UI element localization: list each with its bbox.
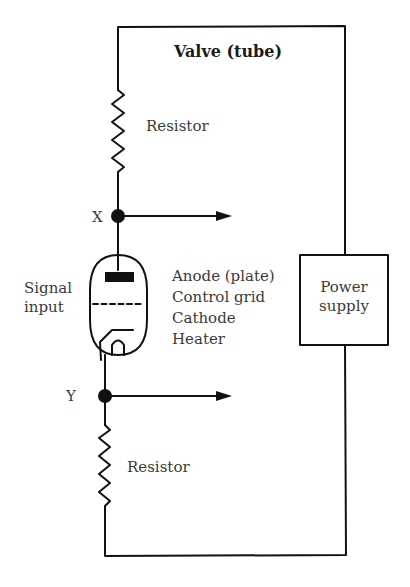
resistor-top-label: Resistor <box>146 117 209 135</box>
node-y-dot <box>98 389 112 403</box>
top-resistor-icon <box>112 90 124 216</box>
valve-circuit-diagram: Valve (tube) Resistor X Signal input Ano… <box>0 0 410 587</box>
tube-part-control-grid-label: Control grid <box>172 287 265 308</box>
power-supply-label-line2: supply <box>300 297 388 315</box>
bottom-resistor-icon <box>99 425 110 512</box>
node-y-label: Y <box>66 387 76 405</box>
right-lower-wire <box>105 345 346 556</box>
anode-plate-icon <box>105 272 134 282</box>
tube-part-heater-label: Heater <box>172 329 225 350</box>
diagram-title: Valve (tube) <box>174 43 282 61</box>
output-y-arrow-icon <box>216 391 232 401</box>
node-x-label: X <box>92 208 103 226</box>
tube-part-anode-label: Anode (plate) <box>172 266 275 287</box>
power-supply-label-line1: Power <box>300 278 388 296</box>
signal-input-label-line2: input <box>24 298 64 316</box>
heater-icon <box>112 341 124 356</box>
node-x-dot <box>111 209 125 223</box>
output-x-arrow-icon <box>216 211 232 221</box>
signal-input-label-line1: Signal <box>24 279 72 297</box>
tube-part-cathode-label: Cathode <box>172 308 236 329</box>
resistor-bottom-label: Resistor <box>127 458 190 476</box>
